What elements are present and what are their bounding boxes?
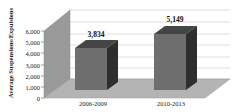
y-tick: 6,000 (14, 28, 40, 35)
value-label: 5,149 (155, 15, 195, 24)
floor (44, 79, 230, 98)
y-tick: 1,000 (14, 84, 40, 91)
y-tick: 4,000 (14, 50, 40, 57)
bar-2006-2009 (75, 40, 118, 90)
y-axis-ticks (41, 31, 44, 98)
y-tick: 2,000 (14, 73, 40, 80)
value-label: 3,834 (76, 30, 116, 39)
bar-chart: Average Suspensions/Expulsions 0 1,000 2… (0, 0, 233, 112)
x-category-label: 2006-2009 (68, 100, 118, 107)
y-tick: 0 (14, 95, 40, 102)
y-tick: 5,000 (14, 39, 40, 46)
y-tick: 3,000 (14, 62, 40, 69)
bar-2010-2013 (154, 26, 197, 90)
x-category-label: 2010-2013 (146, 100, 196, 107)
